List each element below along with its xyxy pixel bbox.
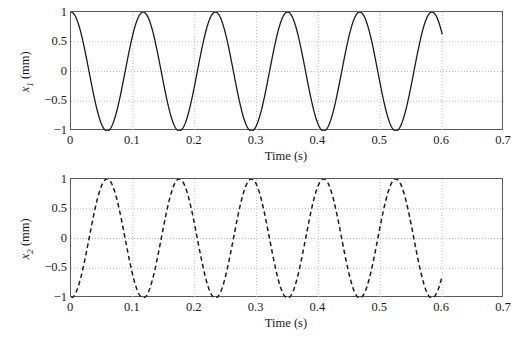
y-axis-label-x2: x2 (mm): [19, 199, 35, 279]
y-axis-label-units: (mm): [18, 51, 32, 79]
x-tick-label: 0.6: [433, 301, 449, 314]
y-tick-label: 1: [61, 173, 67, 186]
x-tick-label: 0.6: [433, 134, 449, 147]
y-axis-label-variable: x: [18, 254, 32, 260]
y-axis-label-units: (mm): [18, 218, 32, 246]
y-axis-label-x1: x1 (mm): [19, 32, 35, 112]
y-tick-label: 0: [61, 65, 67, 78]
y-tick-label: 1: [61, 6, 67, 19]
plot-canvas-x2: [71, 179, 504, 298]
y-axis-label-variable: x: [18, 87, 32, 93]
x-tick-label: 0: [67, 301, 73, 314]
x-axis-label-bottom: Time (s): [265, 317, 307, 330]
plot-canvas-x1: [71, 12, 504, 131]
plot-area-x2: [70, 178, 503, 297]
y-axis-label-subscript: 2: [25, 249, 35, 254]
x-tick-label: 0.2: [186, 134, 202, 147]
x-tick-label: 0.4: [310, 301, 326, 314]
x-tick-label: 0.7: [495, 301, 511, 314]
figure-root: x1 (mm) 1 0.5 0 −0.5 −1: [0, 0, 524, 338]
x-tick-label: 0.2: [186, 301, 202, 314]
y-axis-label-subscript: 1: [25, 82, 35, 87]
gridlines-x2: [71, 179, 504, 298]
plot-panel-x2: x2 (mm) 1 0.5 0 −0.5 −1: [0, 169, 524, 338]
y-tick-label: −0.5: [44, 94, 67, 107]
x-tick-label: 0.1: [124, 134, 140, 147]
gridlines-x1: [71, 12, 504, 131]
plot-panel-x1: x1 (mm) 1 0.5 0 −0.5 −1: [0, 0, 524, 169]
x-tick-label: 0.7: [495, 134, 511, 147]
plot-area-x1: [70, 11, 503, 130]
x-tick-label: 0.5: [371, 301, 387, 314]
x-tick-label: 0.1: [124, 301, 140, 314]
y-tick-label: 0: [61, 232, 67, 245]
x-tick-label: 0.3: [248, 134, 264, 147]
x-tick-label: 0.4: [310, 134, 326, 147]
y-tick-label: −0.5: [44, 261, 67, 274]
x-tick-label: 0.5: [371, 134, 387, 147]
x-tick-label: 0: [67, 134, 73, 147]
x-axis-label-top: Time (s): [265, 150, 307, 163]
y-tick-label: 0.5: [51, 202, 67, 215]
y-tick-label: −1: [54, 291, 67, 304]
y-tick-label: −1: [54, 124, 67, 137]
y-tick-label: 0.5: [51, 35, 67, 48]
x-tick-label: 0.3: [248, 301, 264, 314]
